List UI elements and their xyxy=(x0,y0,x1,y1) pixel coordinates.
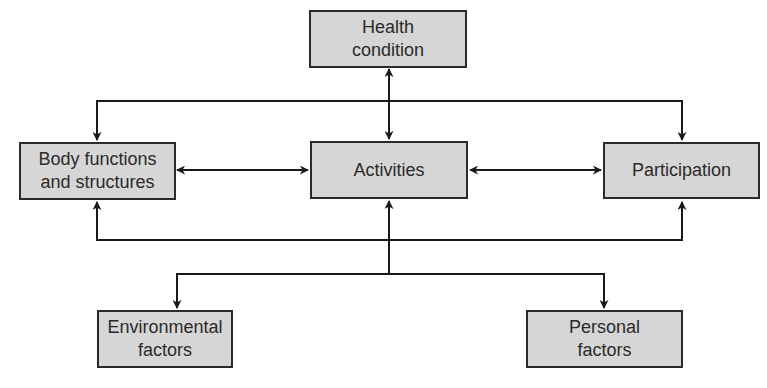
node-health-condition: Health condition xyxy=(309,10,467,68)
node-environmental-factors: Environmental factors xyxy=(97,310,233,368)
node-activities: Activities xyxy=(310,141,468,199)
edge-to-environmental xyxy=(177,274,389,308)
edge-bottom-loop-right xyxy=(389,202,682,240)
edge-to-personal xyxy=(389,274,604,308)
node-label: Participation xyxy=(632,159,731,182)
node-label: Environmental factors xyxy=(107,316,222,362)
edge-bottom-loop-left xyxy=(97,202,389,240)
node-label: Personal factors xyxy=(569,316,640,362)
node-participation: Participation xyxy=(603,142,760,199)
node-label: Health condition xyxy=(352,16,424,62)
node-label: Activities xyxy=(353,159,424,182)
node-label: Body functions and structures xyxy=(38,148,156,194)
node-body-functions: Body functions and structures xyxy=(19,142,176,200)
node-personal-factors: Personal factors xyxy=(526,310,683,368)
edge-top-loop-left xyxy=(97,101,389,140)
edge-top-loop-right xyxy=(389,101,682,140)
